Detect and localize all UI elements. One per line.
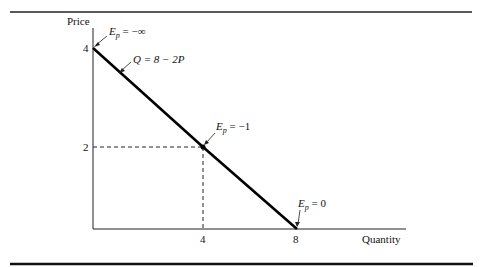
ep-zero-label: Ep = 0 (297, 197, 326, 212)
ep-inf-label: Ep = −∞ (108, 25, 146, 40)
demand-line (93, 48, 297, 229)
y-axis-label: Price (67, 15, 90, 27)
equation-label: Q = 8 − 2P (133, 53, 185, 65)
arrow-ep-zero (298, 210, 300, 224)
x-tick-8: 8 (293, 233, 299, 245)
x-axis-label: Quantity (362, 233, 401, 245)
x-tick-4: 4 (200, 233, 206, 245)
ep-one-label: Ep = −1 (215, 120, 250, 135)
y-tick-4: 4 (83, 42, 89, 54)
demand-curve-chart: Price Quantity 4 2 4 8 Ep = −∞ Q = 8 − 2… (0, 0, 485, 267)
y-tick-2: 2 (83, 141, 89, 153)
midpoint-marker (201, 145, 206, 150)
